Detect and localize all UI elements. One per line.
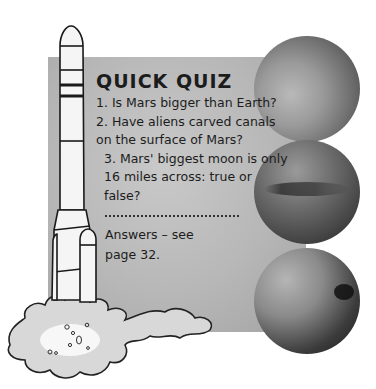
dotted-divider: [105, 215, 239, 217]
quiz-question-2: 2. Have aliens carved canals on the surf…: [96, 113, 292, 150]
quiz-question-3: 3. Mars' biggest moon is only 16 miles a…: [96, 150, 292, 206]
answers-line-2: page 32.: [96, 245, 292, 265]
answers-line-1: Answers – see: [96, 225, 292, 245]
launch-smoke-icon: [8, 295, 211, 378]
quick-quiz: QUICK QUIZ 1. Is Mars bigger than Earth?…: [96, 70, 292, 265]
quiz-title: QUICK QUIZ: [96, 70, 292, 92]
quiz-question-1: 1. Is Mars bigger than Earth?: [96, 94, 292, 113]
